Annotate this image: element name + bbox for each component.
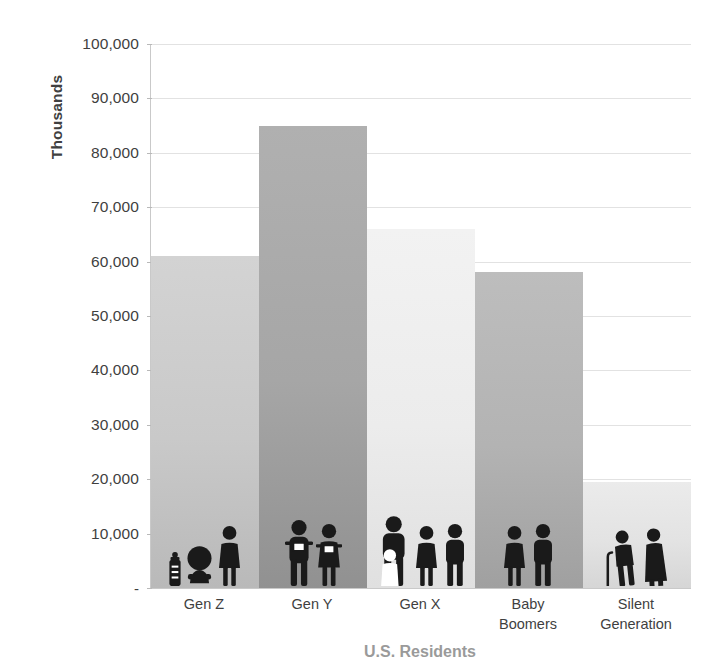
y-axis-tick-label: 40,000 [91,361,139,379]
x-axis-tick-label-line: Gen X [368,594,472,614]
bar-gen-y[interactable] [259,126,367,588]
y-axis-tick-label: 70,000 [91,198,139,216]
x-axis-tick-label-line: Gen Y [260,594,364,614]
chart-container: Thousands 100,00090,00080,00070,00060,00… [0,0,709,659]
y-axis-tick-label: 100,000 [82,35,139,53]
x-axis-tick-label: Gen Y [258,594,366,642]
y-axis-tick-label: 10,000 [91,525,139,543]
x-axis-tick-label-line: Gen Z [152,594,256,614]
chart-title: U.S. Residents [150,643,690,659]
bar-gen-z[interactable] [151,256,259,588]
bar-silent-generation[interactable] [583,482,691,588]
bar-gen-x[interactable] [367,229,475,588]
y-axis-tick-labels: 100,00090,00080,00070,00060,00050,00040,… [38,0,143,659]
x-axis-tick-label: Gen X [366,594,474,642]
y-axis-tick-label: - [134,580,139,597]
bars-layer [151,44,691,588]
y-axis-tick-label: 20,000 [91,470,139,488]
x-axis-tick-label: Gen Z [150,594,258,642]
x-axis-tick-label-line: Generation [584,614,688,634]
x-axis-tick-label-line: Silent [584,594,688,614]
x-axis-tick-label-line: Boomers [476,614,580,634]
bar-fill [583,482,691,588]
gridline [151,588,691,589]
y-axis-tick-label: 50,000 [91,307,139,325]
x-axis-tick-labels: Gen ZGen YGen XBabyBoomersSilentGenerati… [150,594,690,642]
bar-fill [475,272,583,588]
bar-fill [151,256,259,588]
x-axis-tick-label: SilentGeneration [582,594,690,642]
bar-baby-boomers[interactable] [475,272,583,588]
plot-area [150,44,690,588]
x-axis-tick-label-line: Baby [476,594,580,614]
y-axis-tick-label: 60,000 [91,253,139,271]
axis-tick-mark [147,588,152,589]
y-axis-tick-label: 80,000 [91,144,139,162]
y-axis-tick-label: 90,000 [91,89,139,107]
bar-fill [259,126,367,588]
y-axis-tick-label: 30,000 [91,416,139,434]
x-axis-tick-label: BabyBoomers [474,594,582,642]
bar-fill [367,229,475,588]
